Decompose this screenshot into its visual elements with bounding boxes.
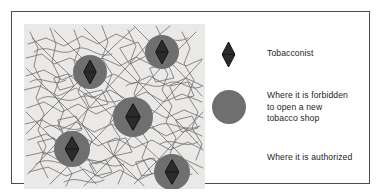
diamond-marker-icon — [84, 60, 97, 84]
street-network-map — [24, 24, 205, 189]
map-site-buffer-circle — [54, 131, 90, 167]
diamond-marker-icon — [156, 40, 169, 64]
legend-item-tobacconist: Tobacconist — [208, 42, 380, 68]
legend-label-authorized-zone: Where it is authorized — [267, 152, 352, 164]
map-site-buffer-circle — [73, 55, 107, 89]
legend-label-tobacconist: Tobacconist — [267, 48, 313, 60]
diamond-marker-icon — [165, 160, 179, 185]
gray-circle-swatch — [212, 90, 246, 124]
legend-item-forbidden-zone: Where it is forbidden to open a new toba… — [208, 90, 380, 130]
diamond-marker-icon — [222, 42, 235, 71]
figure-frame: Tobacconist Where it is forbidden to ope… — [11, 11, 370, 184]
diamond-marker-icon — [126, 104, 141, 131]
map-legend: Tobacconist Where it is forbidden to ope… — [208, 24, 380, 189]
legend-label-forbidden-zone: Where it is forbidden to open a new toba… — [267, 90, 348, 125]
figure-root: Tobacconist Where it is forbidden to ope… — [0, 0, 381, 195]
map-site-buffer-circle — [145, 35, 179, 69]
legend-item-authorized-zone: Where it is authorized — [208, 148, 380, 174]
diamond-marker-icon — [65, 137, 79, 162]
map-site-buffer-circle — [154, 154, 190, 189]
white-area-swatch — [212, 148, 246, 168]
map-site-buffer-circle — [113, 97, 153, 137]
